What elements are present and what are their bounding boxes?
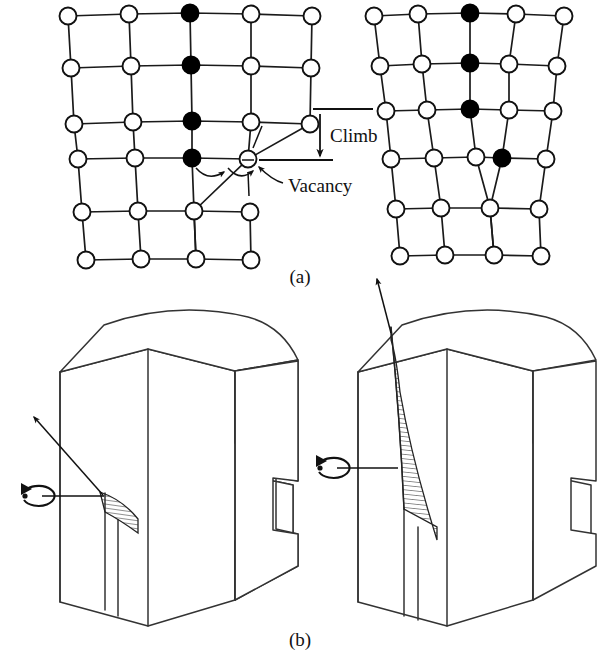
atom-open (501, 102, 518, 119)
dislocation-climb-figure: Climb Vacancy (0, 0, 614, 658)
atom-open (419, 102, 436, 119)
atom-open (70, 151, 87, 168)
lattice-bonds-horizontal-right (374, 13, 564, 256)
atom-open (63, 60, 80, 77)
migration-arrow-1 (196, 168, 224, 176)
atom-open (60, 8, 77, 25)
atom-open (392, 248, 409, 265)
atom-open (125, 114, 142, 131)
atom-open (121, 6, 138, 23)
atom-filled-extra-halfplane (462, 5, 479, 22)
rotation-arrow-head-icon (21, 483, 32, 495)
atom-open (243, 114, 260, 131)
atom-filled-extra-halfplane (462, 101, 479, 118)
atom-filled-dislocation-core (184, 150, 201, 167)
atom-open (414, 56, 431, 73)
atom-open (501, 56, 518, 73)
lattice-bonds-vertical-right (374, 13, 564, 256)
lattice-atoms-right (366, 5, 573, 265)
block-before-climb (21, 310, 298, 626)
lattice-before-climb (60, 5, 321, 269)
atom-open (426, 150, 443, 167)
atom-open (437, 247, 454, 264)
atom-open (78, 252, 95, 269)
rotation-center-dot-icon (22, 493, 27, 498)
rotation-arrow-head-icon (316, 455, 327, 467)
atom-open (66, 116, 83, 133)
vacancy-leader-arrow (259, 167, 283, 183)
atom-open (383, 151, 400, 168)
atom-open (549, 58, 566, 75)
atom-open (304, 8, 321, 25)
atom-open (482, 200, 499, 217)
atom-open (486, 247, 503, 264)
atom-open (538, 151, 555, 168)
rotation-center-dot-icon (317, 465, 322, 470)
block-after-climb (316, 279, 596, 626)
atom-open (531, 201, 548, 218)
atom-open (533, 248, 550, 265)
climb-annotation: Climb (259, 109, 378, 160)
atom-open (303, 60, 320, 77)
panel-b-label: (b) (289, 629, 311, 651)
vacancy-label: Vacancy (288, 175, 353, 196)
atom-open (556, 8, 573, 25)
atom-open (130, 203, 147, 220)
atom-open (127, 150, 144, 167)
atom-filled-dislocation-core (494, 150, 511, 167)
atom-open (243, 252, 260, 269)
atom-open (242, 204, 259, 221)
atom-filled-extra-halfplane (462, 55, 479, 72)
atom-open (188, 251, 205, 268)
atom-open (378, 103, 395, 120)
atom-open (74, 204, 91, 221)
atom-open (468, 149, 485, 166)
atom-open (243, 58, 260, 75)
atom-open (243, 6, 260, 23)
figure-root: Climb Vacancy (0, 0, 614, 658)
atom-open (133, 251, 150, 268)
atom-open (433, 200, 450, 217)
atom-open (410, 6, 427, 23)
atom-open (240, 151, 257, 168)
vacancy-migration-arrows (196, 168, 253, 176)
vacancy-annotation: Vacancy (259, 167, 353, 196)
atom-filled-extra-halfplane (183, 57, 200, 74)
atom-open (508, 6, 525, 23)
climb-label: Climb (330, 125, 378, 146)
block-right-side-panel (533, 361, 596, 600)
atom-open (372, 58, 389, 75)
atom-open (366, 8, 383, 25)
atom-open (545, 103, 562, 120)
lattice-bonds-vertical-left (68, 13, 312, 260)
atom-filled-extra-halfplane (184, 113, 201, 130)
block-left-side-panel (235, 361, 298, 600)
atom-open (302, 116, 319, 133)
block-right-dislocation-line-arrow (377, 279, 391, 333)
atom-open (388, 201, 405, 218)
atom-filled-extra-halfplane (182, 5, 199, 22)
atom-open (123, 58, 140, 75)
atom-open (186, 203, 203, 220)
lattice-after-climb (366, 5, 573, 265)
panel-a-label: (a) (289, 266, 310, 288)
